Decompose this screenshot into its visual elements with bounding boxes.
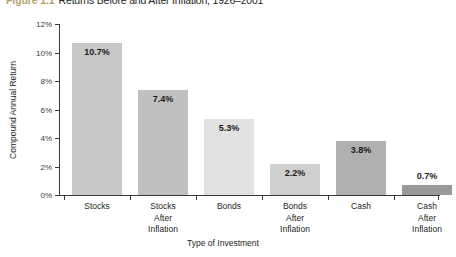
x-axis-tick [438,195,439,200]
x-axis-tick [64,195,65,200]
bar: 3.8% [336,141,386,195]
y-axis-tick [55,24,59,25]
y-axis-tick-label: 8% [40,77,52,86]
x-axis-tick [262,195,263,200]
figure-number: Figure 1.1 [6,0,55,6]
y-axis-tick [55,138,59,139]
bar-value-label: 0.7% [402,171,452,181]
bar: 5.3% [204,119,254,195]
y-axis-tick-label: 4% [40,134,52,143]
bar: 0.7% [402,185,452,195]
y-axis-tick [55,110,59,111]
y-axis-tick-label: 2% [40,162,52,171]
y-axis-tick [55,195,59,196]
x-axis-category-label: CashAfterInflation [377,201,456,236]
x-axis-tick [196,195,197,200]
y-axis-title-label: Compound Annual Return [8,61,18,159]
category-label-line: After [113,213,213,225]
y-axis-title: Compound Annual Return [7,24,19,196]
y-axis-tick-label: 10% [36,48,52,57]
bar-value-label: 10.7% [72,47,122,57]
category-label-line: Cash [377,201,456,213]
x-axis-tick [394,195,395,200]
bar-value-label: 5.3% [204,123,254,133]
x-axis-title: Type of Investment [0,238,446,248]
y-axis-tick [55,81,59,82]
y-axis-tick-label: 6% [40,105,52,114]
figure-caption: Figure 1.1Returns Before and After Infla… [6,0,263,6]
bar-value-label: 2.2% [270,168,320,178]
y-axis-tick-label: 0% [40,191,52,200]
bar-value-label: 7.4% [138,94,188,104]
y-axis-tick [55,53,59,54]
bar: 2.2% [270,164,320,195]
y-axis-line [59,24,60,196]
category-label-line: After [377,213,456,225]
plot-area: 0%2%4%6%8%10%12% 10.7%7.4%5.3%2.2%3.8%0.… [59,24,440,196]
bar: 10.7% [72,43,122,195]
category-label-line: After [245,213,345,225]
category-label-line: Inflation [113,224,213,236]
bar-value-label: 3.8% [336,145,386,155]
x-axis-line [59,195,440,196]
x-axis-tick [328,195,329,200]
y-axis-tick [55,167,59,168]
category-label-line: Inflation [377,224,456,236]
x-axis-tick [130,195,131,200]
bar: 7.4% [138,90,188,195]
category-label-line: Inflation [245,224,345,236]
figure-title: Returns Before and After Inflation, 1926… [59,0,264,6]
y-axis-tick-label: 12% [36,20,52,29]
